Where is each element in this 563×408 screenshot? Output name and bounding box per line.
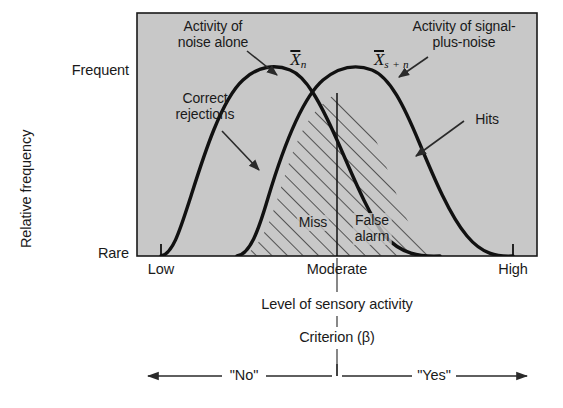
annotation-false-alarm: False alarm xyxy=(353,213,392,245)
mean-noise-sub: n xyxy=(301,58,307,70)
response-label-yes: "Yes" xyxy=(417,367,450,384)
annotation-miss: Miss xyxy=(297,215,329,231)
response-label-no: "No" xyxy=(230,367,258,384)
mean-noise-base: X xyxy=(290,49,300,70)
y-axis-title: Relative frequency xyxy=(18,130,35,248)
mean-signal-base: X xyxy=(374,49,384,70)
response-axis xyxy=(148,364,527,376)
y-tick-frequent: Frequent xyxy=(72,62,129,79)
x-tick-moderate: Moderate xyxy=(307,261,367,278)
mean-label-signal-plus-noise: Xs + n xyxy=(357,29,409,90)
x-tick-high: High xyxy=(498,261,527,278)
y-tick-rare: Rare xyxy=(98,245,129,262)
criterion-title: Criterion (β) xyxy=(299,329,375,346)
annotation-correct-rejections: Correct rejections xyxy=(176,91,235,123)
annotation-noise-alone: Activity of noise alone xyxy=(178,19,249,51)
annotation-hits: Hits xyxy=(475,112,499,128)
mean-signal-sub: s + n xyxy=(384,58,409,70)
mean-label-noise: Xn xyxy=(273,29,306,90)
x-axis-title: Level of sensory activity xyxy=(261,296,412,313)
figure-root: Relative frequency Frequent Rare Low Mod… xyxy=(0,0,563,408)
annotation-signal-plus-noise: Activity of signal- plus-noise xyxy=(412,19,515,51)
x-tick-low: Low xyxy=(148,261,174,278)
